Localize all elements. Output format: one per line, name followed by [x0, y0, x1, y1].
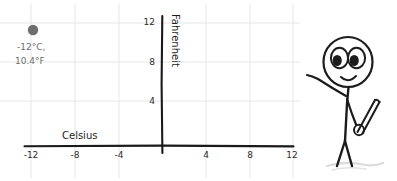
chart-canvas: -12 -8 -4 4 8 12 4 8 12 Celsius Fahrenhe…: [0, 0, 397, 181]
figure-leg-right: [345, 141, 352, 166]
figure-leg-left: [337, 141, 345, 166]
pointer-stick: [358, 100, 380, 134]
x-tick-label-12: 12: [286, 150, 297, 160]
data-point-marker[interactable]: [28, 25, 38, 35]
figure-mouth: [341, 76, 356, 80]
point-label-celsius: -12°C,: [17, 42, 45, 52]
figure-ground-shadow: [327, 163, 383, 170]
y-axis-title: Fahrenheit: [170, 14, 181, 67]
x-tick-label-4: 4: [203, 150, 209, 160]
x-axis-line: [25, 146, 294, 147]
y-tick-label-12: 12: [144, 17, 155, 27]
x-tick-label--4: -4: [115, 150, 124, 160]
figure-pupil-left: [333, 55, 342, 66]
figure-pupil-right: [350, 55, 359, 66]
x-tick-labels: -12 -8 -4 4 8 12: [24, 150, 298, 160]
x-tick-label--8: -8: [71, 150, 80, 160]
grid-lines: [0, 4, 300, 178]
x-axis-title: Celsius: [62, 130, 97, 141]
point-label-fahrenheit: 10.4°F: [15, 56, 45, 66]
figure-eyes: [331, 48, 365, 68]
figure-head: [324, 37, 373, 87]
plot-area: -12 -8 -4 4 8 12 4 8 12 Celsius Fahrenhe…: [0, 0, 300, 181]
x-tick-label--12: -12: [24, 150, 39, 160]
y-tick-label-4: 4: [149, 96, 155, 106]
figure-arm-right: [347, 99, 357, 127]
y-axis-line: [162, 16, 163, 153]
figure-hand: [354, 125, 364, 135]
x-tick-label-8: 8: [247, 150, 253, 160]
y-tick-label-8: 8: [149, 57, 155, 67]
figure-torso: [345, 87, 349, 141]
figure-arm-left: [307, 75, 346, 96]
